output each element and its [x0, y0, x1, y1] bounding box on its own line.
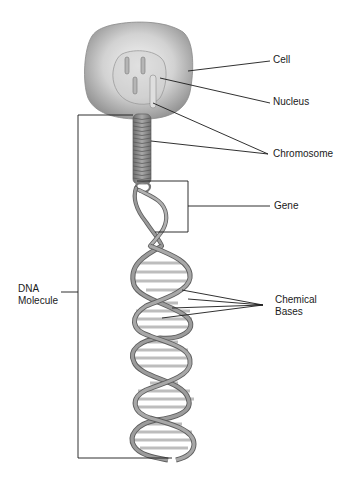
chromosome-leader-2	[151, 141, 268, 154]
label-chemical-bases: Chemical Bases	[275, 294, 317, 318]
bases-leader-2	[188, 299, 263, 305]
nuclear-chromosome	[125, 57, 129, 74]
label-dna-molecule-line2: Molecule	[18, 295, 58, 307]
label-gene: Gene	[274, 200, 298, 212]
unwinding-dna	[135, 188, 167, 246]
label-chemical-bases-line1: Chemical	[275, 294, 317, 306]
label-chromosome: Chromosome	[273, 148, 333, 160]
label-dna-molecule-line1: DNA	[18, 283, 58, 295]
label-dna-molecule: DNA Molecule	[18, 283, 58, 307]
double-helix	[132, 246, 194, 460]
label-chemical-bases-line2: Bases	[275, 306, 317, 318]
label-nucleus: Nucleus	[273, 96, 309, 108]
chromosome-coil	[133, 114, 151, 192]
nuclear-chromosome	[141, 57, 145, 74]
chromosome-leader-1	[153, 103, 268, 154]
nuclear-chromosome	[133, 77, 137, 94]
cell-dna-diagram	[0, 0, 349, 483]
bases-leader-1	[182, 290, 263, 305]
label-cell: Cell	[273, 54, 290, 66]
cell-leader	[188, 61, 270, 71]
